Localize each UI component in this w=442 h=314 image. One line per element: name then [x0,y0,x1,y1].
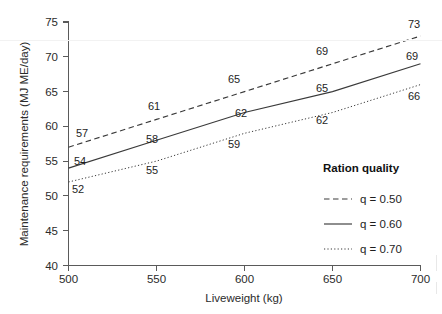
y-tick-label-65: 65 [45,86,58,98]
legend-title: Ration quality [323,162,400,174]
x-tick-group: 500 550 600 650 700 [59,266,430,286]
point-label-q060-650: 65 [316,82,328,94]
point-label-q070-600: 59 [228,138,240,150]
point-label-q050-700: 73 [408,18,420,30]
point-label-q050-500: 57 [76,127,88,139]
y-tick-label-70: 70 [45,51,58,63]
point-label-q070-500: 52 [72,183,84,195]
point-label-q050-650: 69 [316,45,328,57]
point-label-q050-600: 65 [228,73,240,85]
y-axis-title: Maintenance requirements (MJ ME/day) [18,42,30,247]
point-label-group-q070: 52 55 59 62 66 [72,90,420,195]
legend-label-q060[interactable]: q = 0.60 [360,218,402,230]
y-tick-label-50: 50 [45,190,58,202]
legend-label-q050[interactable]: q = 0.50 [360,193,402,205]
point-label-q060-500: 54 [74,155,86,167]
scan-line-artifact [0,40,442,41]
x-tick-label-600: 600 [235,273,254,285]
y-tick-label-40: 40 [45,260,58,272]
x-tick-label-550: 550 [147,273,166,285]
point-label-q070-550: 55 [146,164,158,176]
point-label-q060-600: 62 [235,107,247,119]
point-label-q060-700: 69 [406,50,418,62]
line-chart: 40 45 50 55 60 65 70 75 500 550 600 650 … [0,0,442,314]
x-tick-label-500: 500 [59,273,78,285]
point-label-group-q050: 57 61 65 69 73 [76,18,420,139]
point-label-q050-550: 61 [148,100,160,112]
y-tick-group: 40 45 50 55 60 65 70 75 [45,16,68,272]
point-label-q060-550: 58 [146,133,158,145]
x-tick-label-650: 650 [323,273,342,285]
edge-artifact [436,282,437,294]
legend-label-q070[interactable]: q = 0.70 [360,243,402,255]
edge-artifact [436,255,437,271]
point-label-q070-650: 62 [316,114,328,126]
x-axis-title: Liveweight (kg) [205,292,283,304]
y-tick-label-55: 55 [45,155,58,167]
x-tick-label-700: 700 [411,273,430,285]
y-tick-label-45: 45 [45,225,58,237]
point-label-q070-700: 66 [408,90,420,102]
y-tick-label-75: 75 [45,16,58,28]
chart-figure: 40 45 50 55 60 65 70 75 500 550 600 650 … [0,0,442,314]
series-line-q050 [69,36,421,147]
legend: Ration quality q = 0.50 q = 0.60 q = 0.7… [323,162,402,255]
y-tick-label-60: 60 [45,120,58,132]
